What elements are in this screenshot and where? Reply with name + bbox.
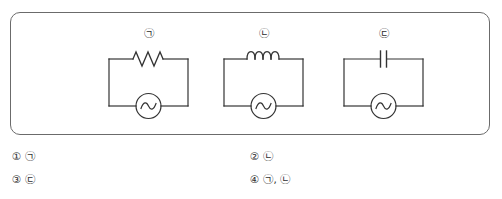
answer-option-2-number: ② — [250, 150, 259, 162]
answer-option-1-text: ㉠ — [25, 150, 35, 162]
answer-option-3-number: ③ — [12, 173, 21, 185]
answer-option-4-number: ④ — [250, 173, 259, 185]
answer-option-1-number: ① — [12, 150, 21, 162]
answer-option-3-text: ㉢ — [25, 173, 35, 185]
circuit-diagram-3: ㉢ — [323, 27, 445, 127]
inductor-coil-icon — [247, 52, 279, 60]
ac-source-sine-wave — [376, 103, 391, 109]
answer-option-2-text: ㉡ — [263, 150, 273, 162]
capacitor-plates-icon — [381, 51, 387, 67]
answer-option-3[interactable]: ③㉢ — [12, 173, 35, 186]
ac-source-sine-wave — [256, 103, 271, 109]
resistor-zigzag-icon — [133, 52, 163, 66]
answer-options-area: ①㉠ ②㉡ ③㉢ ④㉠, ㉡ — [0, 139, 502, 199]
answer-option-4-text: ㉠, ㉡ — [263, 173, 290, 185]
ac-source-sine-wave — [141, 103, 156, 109]
answer-option-2[interactable]: ②㉡ — [250, 150, 273, 163]
circuit-2-svg — [203, 27, 325, 127]
circuit-1-svg — [88, 27, 210, 127]
figure-frame: ㉠ — [10, 12, 490, 135]
answer-option-4[interactable]: ④㉠, ㉡ — [250, 173, 290, 186]
circuit-diagram-1: ㉠ — [88, 27, 210, 127]
answer-option-1[interactable]: ①㉠ — [12, 150, 35, 163]
circuit-diagram-2: ㉡ — [203, 27, 325, 127]
circuit-3-svg — [323, 27, 445, 127]
